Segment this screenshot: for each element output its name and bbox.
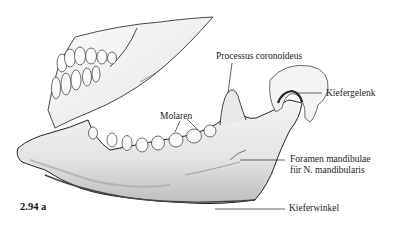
label-processus-coronoideus: Processus coronoideus bbox=[216, 51, 302, 62]
label-foramen-line1: Foramen mandibulae bbox=[290, 154, 370, 165]
figure-number: 2.94 a bbox=[20, 201, 46, 212]
label-kieferwinkel: Kieferwinkel bbox=[289, 203, 339, 214]
label-molaren: Molaren bbox=[160, 111, 192, 122]
label-kiefergelenk: Kiefergelenk bbox=[326, 88, 375, 99]
coronoid-process bbox=[220, 90, 246, 125]
label-foramen-line2: für N. mandibularis bbox=[290, 165, 365, 176]
mandible-illustration bbox=[0, 0, 399, 226]
